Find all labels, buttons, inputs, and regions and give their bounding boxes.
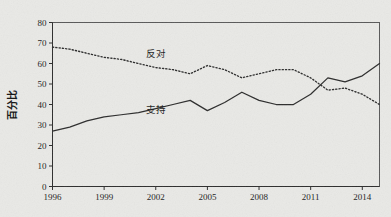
- y-tick-label: 0: [42, 182, 47, 192]
- x-tick-label: 1999: [95, 192, 114, 202]
- y-tick-label: 10: [38, 161, 48, 171]
- y-tick-label: 30: [38, 120, 48, 130]
- y-tick-label: 80: [38, 18, 48, 28]
- y-axis-title: 百分比: [6, 90, 18, 120]
- series-annotation: 反对: [146, 48, 166, 59]
- y-tick-label: 70: [38, 38, 48, 48]
- y-tick-label: 40: [38, 100, 48, 110]
- x-tick-label: 2014: [353, 192, 372, 202]
- chart-background: [0, 0, 391, 217]
- x-tick-label: 1996: [44, 192, 63, 202]
- line-chart: 01020304050607080 1996199920022005200820…: [0, 0, 391, 217]
- x-tick-label: 2005: [198, 192, 217, 202]
- x-tick-label: 2002: [147, 192, 165, 202]
- y-tick-label: 50: [38, 79, 48, 89]
- chart-container: 01020304050607080 1996199920022005200820…: [0, 0, 391, 217]
- x-tick-label: 2011: [302, 192, 320, 202]
- y-tick-label: 60: [38, 59, 48, 69]
- series-annotation: 支持: [146, 104, 166, 115]
- x-tick-label: 2008: [250, 192, 269, 202]
- y-tick-label: 20: [38, 141, 48, 151]
